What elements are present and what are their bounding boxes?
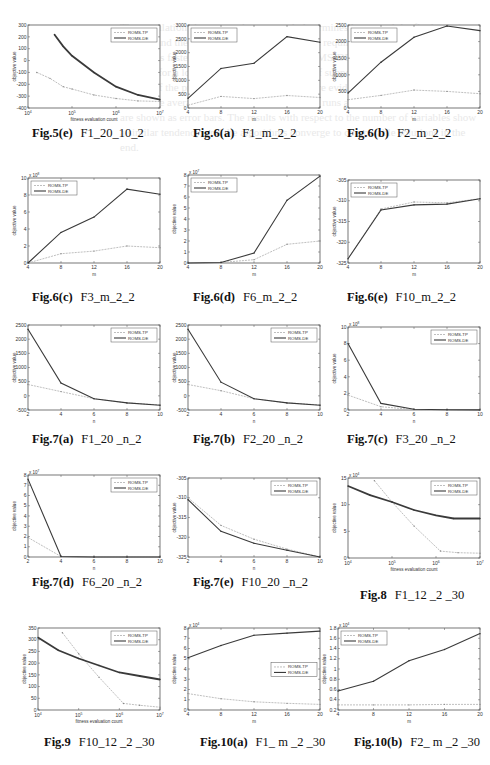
figure-caption: Fig.7(e)F10_20 _n_2 xyxy=(193,575,308,590)
svg-text:1000: 1000 xyxy=(175,364,186,370)
svg-text:12: 12 xyxy=(406,711,412,717)
svg-text:-100: -100 xyxy=(16,69,26,75)
svg-text:0: 0 xyxy=(184,393,187,399)
svg-text:0.6: 0.6 xyxy=(330,686,337,692)
svg-text:104: 104 xyxy=(344,560,352,566)
svg-text:6: 6 xyxy=(93,558,96,564)
svg-text:10: 10 xyxy=(341,324,347,330)
svg-text:8: 8 xyxy=(220,711,223,717)
legend: ROMS-TPROMS-DE xyxy=(351,28,397,42)
svg-text:ROMS-DE: ROMS-DE xyxy=(208,186,228,191)
svg-text:1500: 1500 xyxy=(175,63,186,69)
svg-text:1: 1 xyxy=(184,249,187,255)
svg-text:6: 6 xyxy=(344,357,347,363)
svg-text:4: 4 xyxy=(347,109,350,115)
caption-text: F2_ m _2 _30 xyxy=(410,735,480,749)
figure-caption: Fig.7(d)F6_20 _n_2 xyxy=(32,575,142,590)
legend: ROMS-TPROMS-DE xyxy=(341,631,387,645)
svg-text:2000: 2000 xyxy=(335,38,346,44)
svg-text:8: 8 xyxy=(24,472,27,478)
x-axis-label: m xyxy=(92,272,96,277)
x-axis-label: n xyxy=(413,419,416,424)
figure-caption: Fig.6(b)F2_m_2_2 xyxy=(347,126,451,141)
caption-text: F10_12 _2 _30 xyxy=(79,735,155,749)
svg-text:4: 4 xyxy=(220,411,223,417)
svg-text:0.4: 0.4 xyxy=(330,696,337,702)
svg-text:4: 4 xyxy=(187,711,190,717)
caption-label: Fig.6(a) xyxy=(193,126,234,140)
svg-text:3: 3 xyxy=(24,523,27,529)
chart-fig5e: -400-300-200-1000100200300104105106107fi… xyxy=(10,19,164,124)
legend: ROMS-TPROMS-DE xyxy=(271,662,317,676)
svg-text:150: 150 xyxy=(28,672,37,678)
legend: ROMS-TPROMS-DE xyxy=(351,183,397,197)
svg-text:8: 8 xyxy=(126,558,129,564)
svg-text:ROMS-TP: ROMS-TP xyxy=(448,332,468,337)
svg-text:10: 10 xyxy=(317,558,323,564)
svg-text:2: 2 xyxy=(24,533,27,539)
svg-text:20: 20 xyxy=(157,264,163,270)
svg-text:2: 2 xyxy=(187,411,190,417)
svg-text:4: 4 xyxy=(184,216,187,222)
svg-text:8: 8 xyxy=(372,711,375,717)
svg-text:4: 4 xyxy=(24,513,27,519)
svg-text:-305: -305 xyxy=(336,177,346,183)
legend: ROMS-TPROMS-DE xyxy=(271,481,317,495)
svg-text:8: 8 xyxy=(220,109,223,115)
svg-text:3: 3 xyxy=(184,676,187,682)
svg-text:ROMS-TP: ROMS-TP xyxy=(208,180,228,185)
svg-text:4: 4 xyxy=(27,264,30,270)
svg-text:16: 16 xyxy=(284,109,290,115)
svg-text:-325: -325 xyxy=(336,260,346,266)
figure-caption: Fig.10(a)F1_ m _2 _30 xyxy=(200,735,325,750)
y-multiplier: x 107 xyxy=(189,169,200,175)
svg-text:4: 4 xyxy=(337,711,340,717)
legend: ROMS-TPROMS-DE xyxy=(191,178,237,192)
legend: ROMS-TPROMS-DE xyxy=(111,328,157,342)
caption-text: F10_m_2_2 xyxy=(396,290,456,304)
svg-text:ROMS-TP: ROMS-TP xyxy=(128,480,148,485)
svg-text:1000: 1000 xyxy=(175,77,186,83)
svg-text:4: 4 xyxy=(187,264,190,270)
svg-text:4: 4 xyxy=(347,264,350,270)
svg-text:1: 1 xyxy=(24,543,27,549)
svg-text:ROMS-TP: ROMS-TP xyxy=(208,30,228,35)
svg-text:4: 4 xyxy=(380,411,383,417)
svg-text:ROMS-DE: ROMS-DE xyxy=(448,338,468,343)
figure-caption: Fig.6(e)F10_m_2_2 xyxy=(347,290,456,305)
svg-text:6: 6 xyxy=(253,558,256,564)
legend: ROMS-TPROMS-DE xyxy=(431,481,477,495)
svg-text:1: 1 xyxy=(184,696,187,702)
svg-text:4: 4 xyxy=(344,374,347,380)
svg-text:-325: -325 xyxy=(176,554,186,560)
svg-text:1500: 1500 xyxy=(15,350,26,356)
svg-text:4: 4 xyxy=(184,666,187,672)
svg-text:16: 16 xyxy=(284,711,290,717)
svg-text:ROMS-DE: ROMS-DE xyxy=(358,639,378,644)
svg-text:4: 4 xyxy=(60,558,63,564)
caption-text: F1_12 _2 _30 xyxy=(395,588,464,602)
x-axis-label: m xyxy=(412,117,416,122)
svg-text:10: 10 xyxy=(341,501,347,507)
caption-label: Fig.7(b) xyxy=(193,432,235,446)
legend: ROMS-TPROMS-DE xyxy=(431,330,477,344)
svg-text:6: 6 xyxy=(253,411,256,417)
svg-text:1.4: 1.4 xyxy=(330,645,337,651)
svg-text:-310: -310 xyxy=(336,197,346,203)
svg-text:107: 107 xyxy=(156,712,164,718)
svg-text:2: 2 xyxy=(344,390,347,396)
svg-text:ROMS-DE: ROMS-DE xyxy=(288,336,308,341)
caption-text: F2_m_2_2 xyxy=(397,126,451,140)
svg-text:500: 500 xyxy=(18,378,27,384)
svg-text:1500: 1500 xyxy=(335,55,346,61)
svg-text:1: 1 xyxy=(334,666,337,672)
y-axis-label: objective value xyxy=(172,204,177,234)
svg-text:ROMS-TP: ROMS-TP xyxy=(288,664,308,669)
svg-text:8: 8 xyxy=(286,558,289,564)
svg-text:-200: -200 xyxy=(16,81,26,87)
svg-text:12: 12 xyxy=(91,264,97,270)
y-axis-label: objective value xyxy=(172,51,177,81)
svg-text:4: 4 xyxy=(60,411,63,417)
x-axis-label: fitness evaluation count xyxy=(70,117,118,122)
svg-text:16: 16 xyxy=(444,264,450,270)
